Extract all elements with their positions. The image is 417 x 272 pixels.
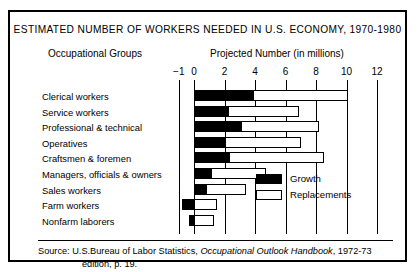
bar-segment-replacements — [228, 106, 300, 117]
bar-segment-growth — [194, 137, 225, 148]
bar-row — [10, 215, 409, 226]
source-edition: , 1972-73 — [333, 246, 372, 256]
x-tick-label-6: 6 — [274, 66, 298, 77]
legend-label-growth: Growth — [290, 173, 321, 184]
x-tick-label-8: 8 — [304, 66, 328, 77]
x-tick-label-0: 0 — [182, 66, 206, 77]
bar-segment-growth — [194, 90, 253, 101]
x-tick-label-4: 4 — [243, 66, 267, 77]
bar-row — [10, 152, 409, 163]
plot-area: −1024681012Clerical workersService worke… — [10, 12, 409, 264]
bar-row — [10, 199, 409, 210]
bar-segment-replacements — [194, 199, 217, 210]
x-tick-label-12: 12 — [365, 66, 389, 77]
bar-segment-growth — [194, 152, 229, 163]
legend-label-replacements: Replacements — [290, 189, 351, 200]
bar-segment-growth — [194, 121, 241, 132]
bar-segment-growth — [194, 168, 211, 179]
source-agency: U.S.Bureau of Labor Statistics, — [72, 246, 198, 256]
bar-segment-replacements — [194, 215, 214, 226]
legend-swatch-growth — [256, 174, 282, 184]
source-publication: Occupational Outlook Handbook — [200, 246, 332, 256]
bar-segment-growth — [182, 199, 194, 210]
bar-segment-replacements — [225, 137, 301, 148]
source-line2: edition, p. 19. — [82, 258, 398, 271]
bar-row — [10, 90, 409, 101]
bar-segment-replacements — [253, 90, 348, 101]
chart-frame: ESTIMATED NUMBER OF WORKERS NEEDED IN U.… — [8, 10, 407, 262]
bar-segment-growth — [194, 184, 206, 195]
bar-row — [10, 137, 409, 148]
source-divider — [38, 240, 393, 241]
bar-segment-replacements — [241, 121, 319, 132]
bar-row — [10, 121, 409, 132]
legend-swatch-replacements — [256, 190, 282, 200]
bar-segment-replacements — [206, 184, 246, 195]
bar-segment-growth — [194, 106, 228, 117]
x-tick-label-10: 10 — [335, 66, 359, 77]
source-note: Source: U.S.Bureau of Labor Statistics, … — [38, 245, 398, 271]
x-tick-label-2: 2 — [213, 66, 237, 77]
bar-row — [10, 106, 409, 117]
bar-segment-replacements — [229, 152, 324, 163]
bar-row — [10, 168, 409, 179]
source-prefix: Source: — [38, 246, 70, 256]
